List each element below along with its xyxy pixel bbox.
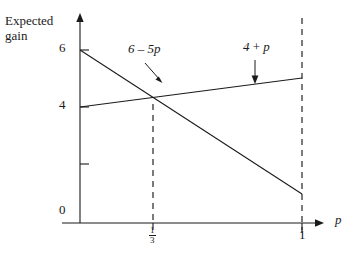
- curve-annotation-up-operator: +: [250, 39, 264, 54]
- annotation-arrow-6-minus-5p: [145, 63, 163, 83]
- x-axis-title: p: [335, 213, 342, 228]
- y-tick-label-4: 4: [59, 98, 66, 113]
- curve-line-4-plus-p: [80, 78, 302, 107]
- curve-annotation-up-tail: p: [263, 39, 270, 54]
- fraction-numerator: 1: [148, 226, 157, 235]
- curve-annotation-down-tail: 5p: [148, 41, 161, 56]
- x-tick-label-one-third: 1 3: [148, 226, 157, 245]
- y-tick-label-6: 6: [59, 41, 66, 56]
- curve-annotation-4-plus-p: 4 + p: [243, 40, 270, 55]
- curve-line-6-minus-5p: [80, 50, 302, 194]
- curve-annotation-down-operator: –: [135, 41, 148, 56]
- expected-gain-chart: Expected gain 6 4 0 1 3 1 p 6 – 5p 4 + p: [0, 0, 352, 263]
- y-tick-label-0: 0: [59, 203, 66, 218]
- annotation-arrow-4-plus-p: [252, 60, 259, 84]
- x-axis-arrowhead: [315, 219, 324, 226]
- fraction-denominator: 3: [148, 236, 157, 245]
- y-axis-title: Expected gain: [5, 14, 75, 43]
- curve-annotation-6-minus-5p: 6 – 5p: [128, 42, 161, 57]
- x-tick-label-one: 1: [299, 228, 306, 243]
- y-axis-arrowhead: [76, 13, 83, 22]
